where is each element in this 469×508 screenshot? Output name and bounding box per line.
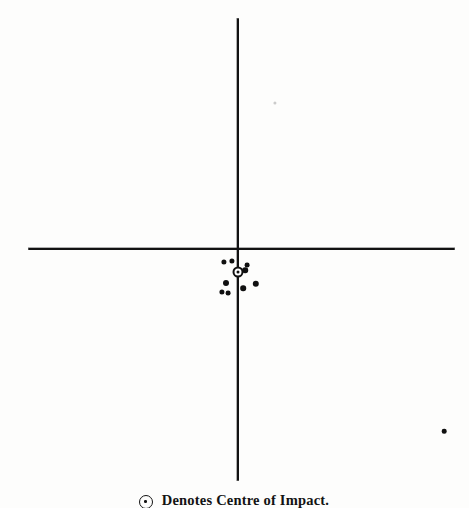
shot-hole bbox=[226, 291, 231, 296]
shot-hole bbox=[240, 285, 246, 291]
shot-grouping-figure: Denotes Centre of Impact. bbox=[0, 0, 469, 508]
shot-hole bbox=[253, 281, 259, 287]
figure-caption: Denotes Centre of Impact. bbox=[0, 492, 469, 508]
centre-of-impact-symbol-icon bbox=[139, 495, 153, 508]
shot-hole bbox=[223, 280, 229, 286]
vertical-axis bbox=[237, 18, 239, 481]
horizontal-axis bbox=[28, 248, 455, 250]
shot-hole bbox=[219, 289, 224, 294]
shot-hole bbox=[442, 429, 447, 434]
figure-caption-text: Denotes Centre of Impact. bbox=[162, 492, 329, 508]
centre-of-impact-marker bbox=[233, 267, 244, 278]
shot-hole bbox=[229, 258, 234, 263]
centre-of-impact-dot bbox=[237, 271, 240, 274]
shot-hole bbox=[221, 259, 226, 264]
shot-hole bbox=[273, 101, 276, 104]
